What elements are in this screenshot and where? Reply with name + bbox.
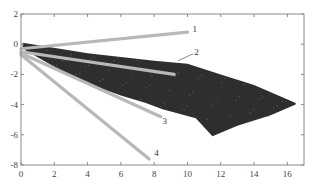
region-speckle [56, 65, 57, 66]
line-label-1: 1 [192, 24, 197, 34]
y-tick-label: -4 [11, 100, 19, 110]
label-2-leader [178, 54, 193, 61]
region-speckle [189, 95, 190, 96]
line-label-2: 2 [194, 47, 199, 57]
region-speckle [239, 96, 240, 97]
region-speckle [70, 54, 71, 55]
region-speckle [259, 99, 260, 100]
y-tick-label: 2 [14, 9, 19, 19]
region-speckle [187, 106, 188, 107]
y-tick-label: 0 [14, 39, 19, 49]
region-speckle [244, 84, 245, 85]
region-speckle [174, 76, 175, 77]
region-speckle [207, 119, 208, 120]
region-speckle [198, 78, 199, 79]
region-speckle [131, 72, 132, 73]
region-speckle [160, 106, 161, 107]
region-speckle [282, 101, 283, 102]
region-speckle [149, 85, 150, 86]
region-speckle [276, 106, 277, 107]
region-speckle [61, 61, 62, 62]
region-speckle [65, 60, 66, 61]
region-speckle [122, 85, 123, 86]
region-speckle [108, 70, 109, 71]
region-speckle [88, 65, 89, 66]
region-speckle [250, 113, 251, 114]
region-speckle [117, 57, 118, 58]
region-speckle [192, 91, 193, 92]
x-tick-label: 12 [216, 169, 225, 179]
series-line-1 [21, 32, 187, 49]
region-speckle [85, 67, 86, 68]
region-speckle [248, 122, 249, 123]
region-speckle [140, 99, 141, 100]
region-speckle [253, 109, 254, 110]
x-tick-label: 6 [119, 169, 124, 179]
region-speckle [114, 60, 115, 61]
region-speckle [99, 81, 100, 82]
region-speckle [201, 75, 202, 76]
region-speckle [285, 101, 286, 102]
region-speckle [47, 50, 48, 51]
region-speckle [126, 83, 127, 84]
region-speckle [163, 103, 164, 104]
region-speckle [53, 65, 54, 66]
region-speckle [212, 105, 213, 106]
x-tick-label: 4 [85, 169, 90, 179]
x-tick-label: 14 [250, 169, 260, 179]
y-tick-label: -2 [11, 69, 19, 79]
region-speckle [79, 73, 80, 74]
region-speckle [262, 97, 263, 98]
region-speckle [103, 79, 104, 80]
region-speckle [235, 100, 236, 101]
region-speckle [230, 116, 231, 117]
region-speckle [221, 82, 222, 83]
x-tick-label: 16 [283, 169, 293, 179]
x-tick-label: 2 [52, 169, 57, 179]
x-tick-label: 10 [183, 169, 193, 179]
region-speckle [215, 100, 216, 101]
x-tick-label: 0 [19, 169, 24, 179]
chart: 024681012141620-2-4-6-8 1234 [0, 0, 313, 188]
region-speckle [137, 60, 138, 61]
region-speckle [151, 76, 152, 77]
region-speckle [146, 88, 147, 89]
line-label-3: 3 [163, 116, 168, 126]
line-label-4: 4 [154, 148, 159, 158]
region-speckle [94, 57, 95, 58]
x-tick-label: 8 [152, 169, 157, 179]
y-tick-label: -6 [11, 130, 19, 140]
region-speckle [178, 72, 179, 73]
region-speckle [183, 109, 184, 110]
region-speckle [273, 108, 274, 109]
region-speckle [169, 90, 170, 91]
region-speckle [90, 59, 91, 60]
y-tick-label: -8 [11, 160, 19, 170]
region-speckle [224, 78, 225, 79]
region-speckle [76, 74, 77, 75]
region-speckle [267, 116, 268, 117]
